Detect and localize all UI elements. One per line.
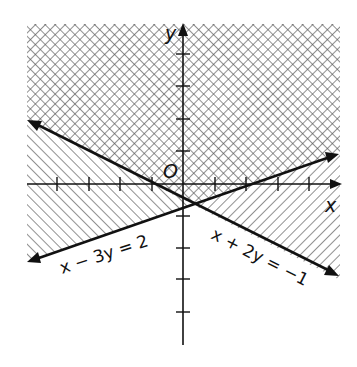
x-axis-label: x (324, 194, 337, 216)
origin-label: O (163, 160, 178, 182)
y-axis-label: y (164, 22, 177, 44)
inequality-graph: y x O x − 3y = 2 x + 2y = −1 (0, 0, 357, 367)
